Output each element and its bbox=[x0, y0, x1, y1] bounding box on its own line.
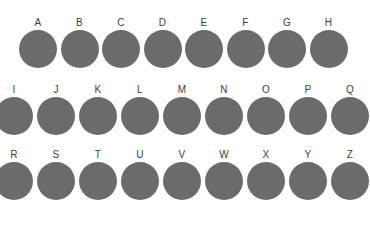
swatch-dot-j[interactable] bbox=[37, 97, 75, 135]
swatch-dot-y[interactable] bbox=[289, 162, 327, 200]
swatch-label-y: Y bbox=[288, 149, 328, 160]
swatch-dot-s[interactable] bbox=[37, 162, 75, 200]
swatch-label-m: M bbox=[162, 84, 202, 95]
swatch-label-t: T bbox=[78, 149, 118, 160]
swatch-dot-i[interactable] bbox=[0, 97, 33, 135]
swatch-label-j: J bbox=[36, 84, 76, 95]
swatch-label-w: W bbox=[204, 149, 244, 160]
swatch-cell-w[interactable]: W bbox=[204, 149, 244, 235]
swatch-label-f: F bbox=[226, 17, 266, 28]
swatch-cell-r[interactable]: R bbox=[0, 149, 34, 235]
swatch-label-i: I bbox=[0, 84, 34, 95]
swatch-dot-v[interactable] bbox=[163, 162, 201, 200]
swatch-cell-s[interactable]: S bbox=[36, 149, 76, 235]
swatch-label-r: R bbox=[0, 149, 34, 160]
swatch-dot-g[interactable] bbox=[268, 30, 306, 68]
swatch-cell-x[interactable]: X bbox=[246, 149, 286, 235]
swatch-label-c: C bbox=[101, 17, 141, 28]
swatch-label-e: E bbox=[184, 17, 224, 28]
swatch-row-3: RSTUVWXYZ bbox=[0, 149, 362, 235]
swatch-dot-u[interactable] bbox=[121, 162, 159, 200]
swatch-dot-d[interactable] bbox=[144, 30, 182, 68]
swatch-dot-o[interactable] bbox=[247, 97, 285, 135]
swatch-dot-e[interactable] bbox=[185, 30, 223, 68]
swatch-label-a: A bbox=[18, 17, 58, 28]
swatch-label-x: X bbox=[246, 149, 286, 160]
swatch-cell-u[interactable]: U bbox=[120, 149, 160, 235]
swatch-cell-v[interactable]: V bbox=[162, 149, 202, 235]
swatch-dot-n[interactable] bbox=[205, 97, 243, 135]
swatch-label-u: U bbox=[120, 149, 160, 160]
swatch-label-q: Q bbox=[330, 84, 370, 95]
swatch-label-v: V bbox=[162, 149, 202, 160]
swatch-label-p: P bbox=[288, 84, 328, 95]
swatch-dot-z[interactable] bbox=[331, 162, 369, 200]
swatch-label-l: L bbox=[120, 84, 160, 95]
swatch-dot-m[interactable] bbox=[163, 97, 201, 135]
swatch-label-z: Z bbox=[330, 149, 370, 160]
swatch-cell-y[interactable]: Y bbox=[288, 149, 328, 235]
swatch-label-g: G bbox=[267, 17, 307, 28]
swatch-dot-b[interactable] bbox=[61, 30, 99, 68]
swatch-dot-p[interactable] bbox=[289, 97, 327, 135]
swatch-dot-l[interactable] bbox=[121, 97, 159, 135]
swatch-dot-a[interactable] bbox=[19, 30, 57, 68]
swatch-label-b: B bbox=[60, 17, 100, 28]
swatch-dot-q[interactable] bbox=[331, 97, 369, 135]
swatch-dot-k[interactable] bbox=[79, 97, 117, 135]
swatch-dot-h[interactable] bbox=[310, 30, 348, 68]
swatch-dot-x[interactable] bbox=[247, 162, 285, 200]
swatch-dot-t[interactable] bbox=[79, 162, 117, 200]
swatch-label-s: S bbox=[36, 149, 76, 160]
swatch-cell-t[interactable]: T bbox=[78, 149, 118, 235]
swatch-label-d: D bbox=[143, 17, 183, 28]
swatch-label-h: H bbox=[309, 17, 349, 28]
swatch-dot-c[interactable] bbox=[102, 30, 140, 68]
swatch-cell-z[interactable]: Z bbox=[330, 149, 370, 235]
swatch-dot-w[interactable] bbox=[205, 162, 243, 200]
swatch-dot-f[interactable] bbox=[227, 30, 265, 68]
swatch-dot-r[interactable] bbox=[0, 162, 33, 200]
swatch-label-k: K bbox=[78, 84, 118, 95]
swatch-label-o: O bbox=[246, 84, 286, 95]
swatch-label-n: N bbox=[204, 84, 244, 95]
